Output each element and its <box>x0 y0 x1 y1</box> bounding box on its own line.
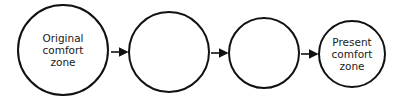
label-line: Present <box>332 36 373 48</box>
label-line: comfort <box>42 44 83 56</box>
label-line: zone <box>42 56 83 68</box>
label-line: zone <box>332 60 373 72</box>
label-original-comfort-zone: Original comfort zone <box>42 32 83 68</box>
label-line: comfort <box>332 48 373 60</box>
node-intermediate-1 <box>129 12 209 92</box>
label-present-comfort-zone: Present comfort zone <box>332 36 373 72</box>
node-intermediate-2 <box>229 18 299 88</box>
label-line: Original <box>42 32 83 44</box>
